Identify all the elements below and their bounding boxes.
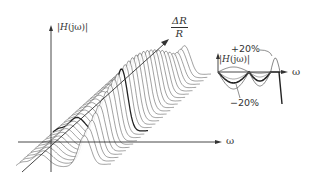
main-vertical-axis-label: |H(jω)| <box>57 23 88 32</box>
r-denominator: R <box>171 28 188 39</box>
delta-r-numerator: ΔR <box>171 16 188 28</box>
inset-omega-label: ω <box>292 67 300 77</box>
main-omega-label: ω <box>226 136 234 146</box>
inset-vertical-axis-label: |H(jω)| <box>219 55 250 64</box>
delta-r-axis-arrow-icon <box>161 39 169 46</box>
minus-20-percent-annotation: −20% <box>230 98 259 108</box>
waterfall-diagram <box>0 0 312 185</box>
vertical-axis-arrow-icon <box>49 25 53 31</box>
plus-20-percent-annotation: +20% <box>231 44 260 54</box>
omega-axis-arrow-icon <box>215 140 222 144</box>
delta-r-over-r-label: ΔR R <box>171 16 188 39</box>
waterfall-curves <box>16 46 211 167</box>
